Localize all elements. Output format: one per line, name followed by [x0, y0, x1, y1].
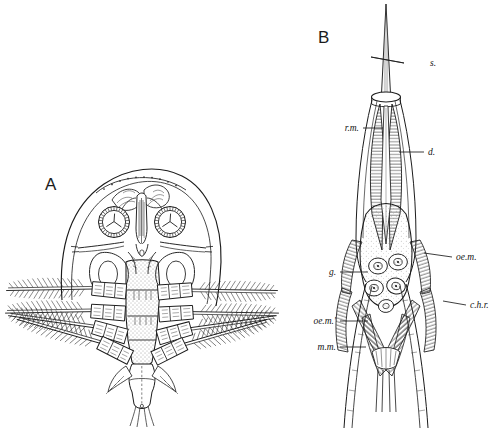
label-rm: r.m.: [345, 123, 359, 133]
label-oem: oe.m.: [456, 252, 477, 262]
leader-line-chr: [443, 301, 466, 305]
leader-line-oem: [424, 253, 452, 257]
figure-plate: s. r.m. d. oe.m. g. c.h.r. oe.m.' m.m. A…: [0, 0, 504, 432]
compound-eye-right: [155, 207, 186, 238]
label-g: g.: [329, 267, 336, 277]
oesophageal-muscle: [410, 240, 431, 294]
label-mm: m.m.: [318, 342, 336, 352]
panel-letter-b: B: [318, 28, 329, 47]
sheath-collar: [372, 92, 401, 102]
label-chr: c.h.r.: [470, 300, 489, 310]
cephalic-horizontal-retractor: [420, 288, 436, 352]
panel-a-drawing: [3, 169, 280, 427]
illustration-canvas: s. r.m. d. oe.m. g. c.h.r. oe.m.' m.m. A…: [0, 0, 504, 432]
label-s: s.: [430, 58, 436, 68]
panel-letter-a: A: [45, 175, 57, 194]
label-d: d.: [428, 147, 435, 157]
panel-b-drawing: [336, 4, 436, 428]
compound-eye-left: [99, 207, 130, 238]
label-oem-prime: oe.m.': [313, 316, 337, 326]
